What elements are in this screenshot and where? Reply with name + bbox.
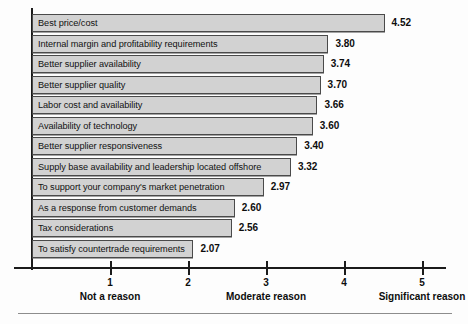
bar-category-label: Best price/cost (38, 14, 98, 32)
bar-category-label: Tax considerations (38, 219, 113, 237)
bar-category-label: Better supplier availability (38, 55, 141, 73)
bar-row: Better supplier quality3.70 (32, 76, 381, 94)
bar-category-label: Supply base availability and leadership … (38, 158, 261, 176)
axis-tick-label: 2 (168, 277, 208, 288)
bar-category-label: Internal margin and profitability requir… (38, 35, 218, 53)
axis-tick-caption: Significant reason (342, 291, 468, 302)
axis-tick-caption: Not a reason (30, 291, 190, 302)
bar-category-label: To support your company's market penetra… (38, 178, 224, 196)
bar-category-label: Availability of technology (38, 117, 137, 135)
bar-category-label: Labor cost and availability (38, 96, 142, 114)
axis-tick-label: 5 (402, 277, 442, 288)
axis-tick-mark (188, 261, 190, 275)
bar-row: As a response from customer demands2.60 (32, 199, 295, 217)
bar-category-label: Better supplier quality (38, 76, 125, 94)
bar-row: Best price/cost4.52 (32, 14, 445, 32)
bar-value-label: 3.70 (328, 76, 347, 94)
bar-category-label: As a response from customer demands (38, 199, 197, 217)
bar-row: To satisfy countertrade requirements2.07 (32, 240, 253, 258)
bar-row: Supply base availability and leadership … (32, 158, 351, 176)
axis-tick-label: 3 (246, 277, 286, 288)
axis-tick-mark (110, 261, 112, 275)
bar-value-label: 3.32 (298, 158, 317, 176)
bar-row: Better supplier responsiveness3.40 (32, 137, 357, 155)
bar-value-label: 2.07 (200, 240, 219, 258)
axis-tick-mark (422, 261, 424, 275)
bar-value-label: 2.60 (242, 199, 261, 217)
bar-row: Tax considerations2.56 (32, 219, 292, 237)
bar-value-label: 2.97 (271, 178, 290, 196)
bar-value-label: 3.74 (331, 55, 350, 73)
bar-row: Labor cost and availability3.66 (32, 96, 377, 114)
bar-value-label: 3.40 (304, 137, 323, 155)
bar-row: To support your company's market penetra… (32, 178, 324, 196)
footer-rule (18, 313, 452, 314)
axis-tick-caption: Moderate reason (186, 291, 346, 302)
bars-container: Best price/cost4.52Internal margin and p… (0, 0, 468, 262)
axis-tick-label: 1 (90, 277, 130, 288)
value-axis-line (14, 267, 446, 269)
bar-row: Internal margin and profitability requir… (32, 35, 388, 53)
bar-row: Better supplier availability3.74 (32, 55, 384, 73)
bar-value-label: 3.80 (335, 35, 354, 53)
bar-value-label: 4.52 (392, 14, 411, 32)
bar-value-label: 3.66 (324, 96, 343, 114)
axis-tick-label: 4 (324, 277, 364, 288)
bar-value-label: 2.56 (239, 219, 258, 237)
bar-value-label: 3.60 (320, 117, 339, 135)
bar-category-label: To satisfy countertrade requirements (38, 240, 185, 258)
bar-chart: Best price/cost4.52Internal margin and p… (0, 0, 468, 324)
axis-tick-mark (266, 261, 268, 275)
bar-row: Availability of technology3.60 (32, 117, 373, 135)
axis-tick-mark (344, 261, 346, 275)
bar-category-label: Better supplier responsiveness (38, 137, 162, 155)
